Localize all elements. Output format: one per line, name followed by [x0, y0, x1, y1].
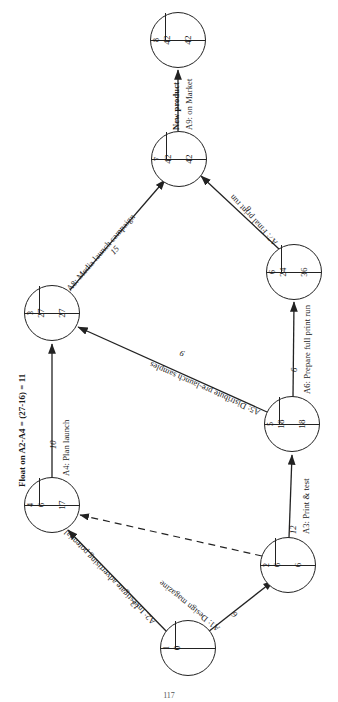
- node-est: 6: [273, 563, 282, 568]
- edge-dummy: [80, 515, 262, 556]
- node-4[interactable]: 4 6 17: [24, 477, 80, 533]
- activity-duration-a3: 12: [288, 526, 298, 535]
- node-8[interactable]: 8 42 42: [150, 12, 206, 68]
- node-7[interactable]: 7 42 42: [151, 131, 207, 187]
- node-id: 3: [27, 311, 35, 315]
- activity-duration-a6: 6: [289, 368, 299, 372]
- activity-label-a3: A3: Print & test: [302, 478, 312, 534]
- node-lft: 36: [300, 267, 309, 276]
- node-id: 2: [263, 563, 271, 567]
- activity-label-a9: A9: on Market: [185, 79, 195, 130]
- activity-label-a4: A4: Plan launch: [62, 420, 72, 476]
- network-diagram-canvas: 1 0 2 6 6 4 6 17 5 18 18 3 27 27 6 24 36: [0, 0, 338, 702]
- node-divider-vertical: [275, 538, 276, 565]
- node-lft: 27: [58, 308, 67, 317]
- node-id: 7: [154, 157, 162, 161]
- node-divider-vertical: [175, 621, 176, 648]
- node-lft: 17: [58, 500, 67, 509]
- node-id: 5: [267, 422, 275, 426]
- node-est: 24: [279, 267, 288, 276]
- node-lft: 6: [294, 563, 303, 568]
- node-est: 0: [173, 646, 182, 651]
- page-number: 117: [163, 691, 175, 700]
- node-est: 27: [37, 308, 46, 317]
- node-2[interactable]: 2 6 6: [260, 537, 316, 593]
- node-5[interactable]: 5 18 18: [264, 396, 320, 452]
- node-id: 1: [163, 646, 171, 650]
- node-lft: 42: [184, 35, 193, 44]
- node-id: 6: [269, 270, 277, 274]
- float-annotation: Float on A2-A4 = (27-16) = 11: [17, 374, 27, 487]
- edge-a6: [293, 302, 294, 397]
- activity-duration-a4: 10: [48, 441, 58, 450]
- activity-label-a6: A6: Prepare full print run: [303, 305, 313, 394]
- node-id: 4: [27, 503, 35, 507]
- node-est: 42: [164, 154, 173, 163]
- node-est: 18: [277, 419, 286, 428]
- node-1[interactable]: 1 0: [160, 620, 216, 676]
- node-id: 8: [153, 38, 161, 42]
- node-6[interactable]: 6 24 36: [266, 244, 322, 300]
- node-lft: 18: [298, 419, 307, 428]
- activity-label-a9-line2: New product: [172, 82, 182, 130]
- node-lft: 42: [185, 154, 194, 163]
- node-est: 6: [37, 503, 46, 508]
- node-divider-vertical: [39, 478, 40, 505]
- node-est: 42: [163, 35, 172, 44]
